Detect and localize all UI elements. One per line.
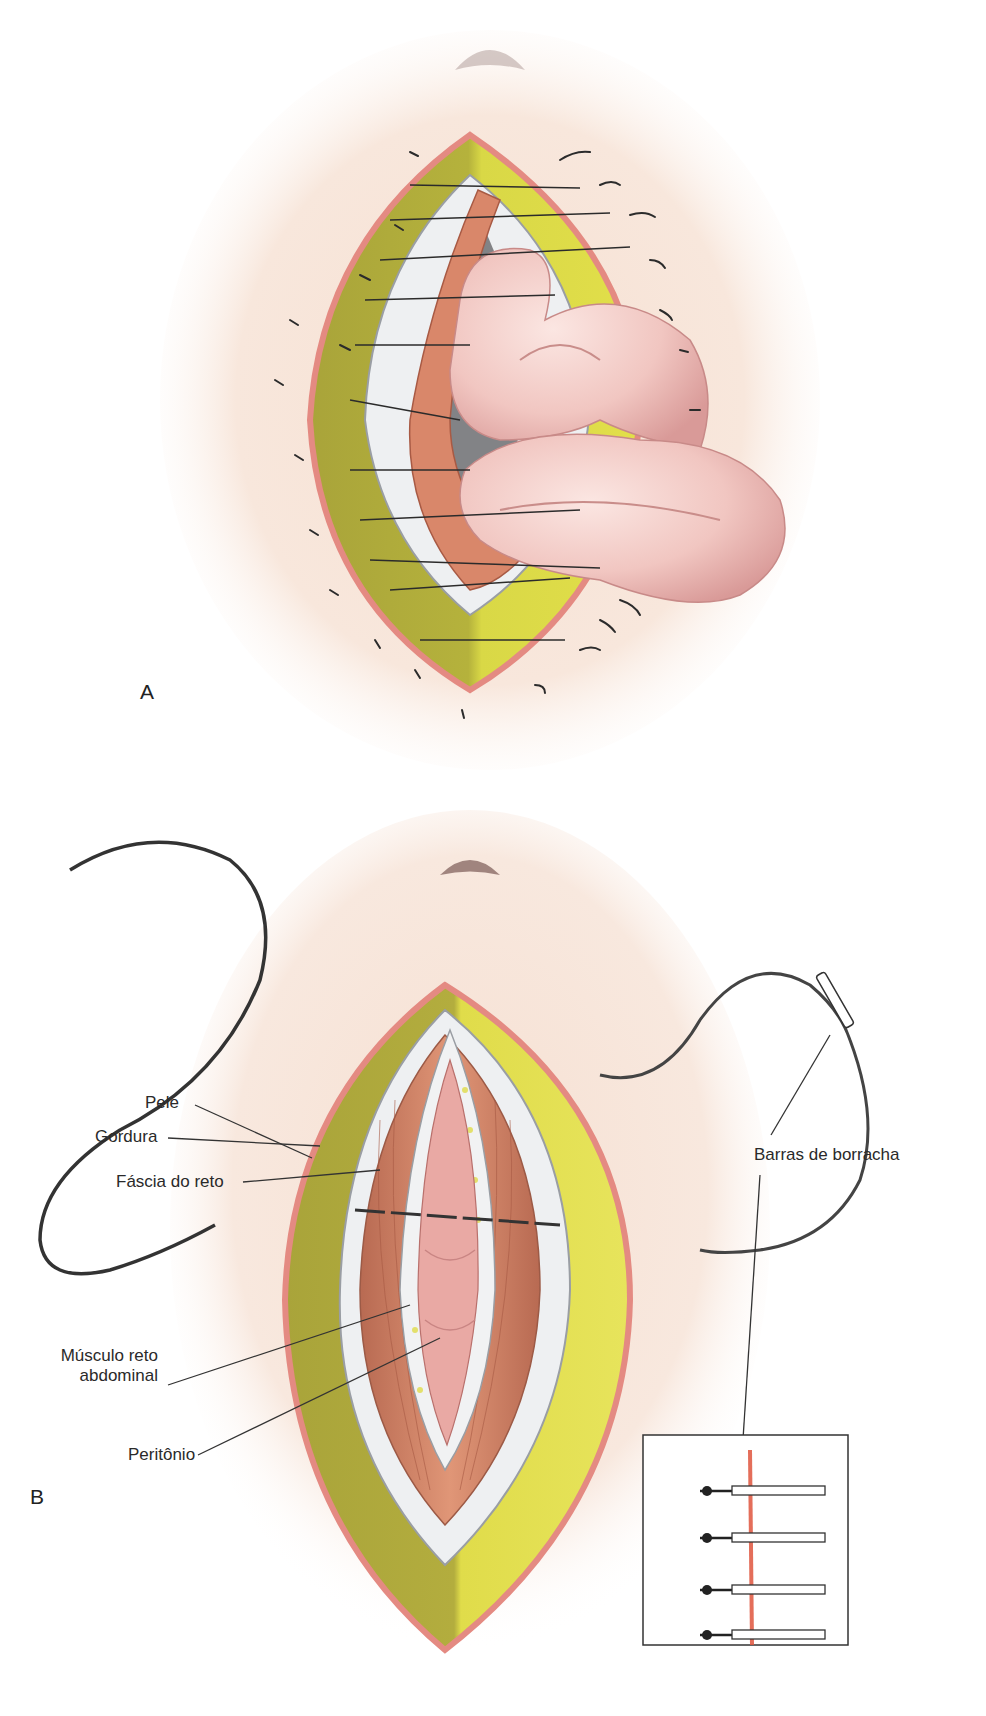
panel-a: A [0,0,986,780]
panel-b-illustration [0,780,986,1716]
panel-a-illustration [0,0,986,780]
rubber-bolster [816,972,855,1029]
label-gordura: Gordura [95,1127,157,1147]
label-barras-de-borracha: Barras de borracha [754,1145,900,1165]
panel-b: Pele Gordura Fáscia do reto Músculo reto… [0,780,986,1716]
label-fascia-do-reto: Fáscia do reto [116,1172,224,1192]
label-musculo-reto-abdominal: Músculo reto abdominal [40,1346,158,1386]
panel-letter-b: B [30,1485,44,1509]
inset-bolsters [643,1435,848,1645]
label-musculo-line2: abdominal [40,1366,158,1386]
panel-letter-a: A [140,680,154,704]
label-pele: Pele [145,1093,179,1113]
label-musculo-line1: Músculo reto [40,1346,158,1366]
label-peritonio: Peritônio [128,1445,195,1465]
